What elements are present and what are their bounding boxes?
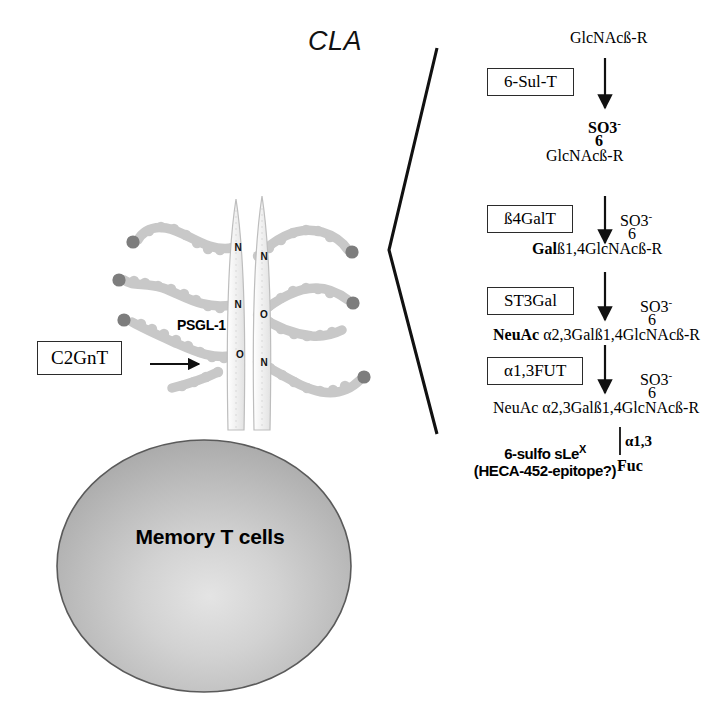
sulfate-group-1: SO3- xyxy=(588,118,621,136)
enzyme-box-st3gal: ST3Gal xyxy=(487,287,574,315)
product-2-bold: Gal xyxy=(532,240,557,257)
psgl1-stalk-left xyxy=(227,199,244,430)
figure-canvas: N N O N O N CLA PSGL-1 Memory T cells C2… xyxy=(0,0,725,701)
sulfate-group-4: SO3- xyxy=(640,370,672,388)
svg-text:N: N xyxy=(260,251,267,262)
enzyme-box-6-sul-t: 6-Sul-T xyxy=(487,68,574,96)
enzyme-box-c2gnt: C2GnT xyxy=(37,341,122,375)
pathway-product-1: GlcNAcß-R xyxy=(546,148,623,165)
epitope-superscript: X xyxy=(579,443,586,455)
enzyme-box-a13fut: α1,3FUT xyxy=(487,357,583,385)
product-3-plain: α2,3Galß1,4GlcNAcß-R xyxy=(539,326,700,343)
epitope-caption: 6-sulfo sLeX (HECA-452-epitope?) xyxy=(452,443,638,480)
cla-title: CLA xyxy=(308,26,362,57)
memory-t-cell-body xyxy=(57,440,351,692)
pathway-product-4: NeuAc α2,3Galß1,4GlcNAcß-R xyxy=(493,400,699,417)
sulfate-group-3: SO3- xyxy=(640,297,672,315)
pathway-substrate: GlcNAcß-R xyxy=(570,30,647,47)
svg-text:N: N xyxy=(234,299,241,310)
svg-text:O: O xyxy=(236,349,244,360)
epitope-line-2: (HECA-452-epitope?) xyxy=(452,463,638,480)
memory-t-cell-label: Memory T cells xyxy=(0,525,420,549)
sulfate-charge-4: - xyxy=(668,369,672,381)
svg-text:O: O xyxy=(260,309,268,320)
sulfate-charge-2: - xyxy=(648,210,652,222)
epitope-name: 6-sulfo sLe xyxy=(504,445,579,462)
svg-text:N: N xyxy=(260,357,267,368)
sulfate-charge-1: - xyxy=(617,117,621,129)
cla-leader-line xyxy=(389,48,437,434)
sulfate-charge-3: - xyxy=(668,296,672,308)
svg-text:N: N xyxy=(234,242,241,253)
product-2-plain: ß1,4GlcNAcß-R xyxy=(557,240,662,257)
pathway-product-2: Galß1,4GlcNAcß-R xyxy=(532,241,662,258)
psgl1-label: PSGL-1 xyxy=(177,317,226,333)
pathway-product-3: NeuAc α2,3Galß1,4GlcNAcß-R xyxy=(493,327,700,344)
sulfate-group-2: SO3- xyxy=(620,211,652,229)
enzyme-box-b4galt: ß4GalT xyxy=(487,205,573,233)
epitope-line-1: 6-sulfo sLeX xyxy=(452,443,638,463)
product-3-bold: NeuAc xyxy=(493,326,539,343)
